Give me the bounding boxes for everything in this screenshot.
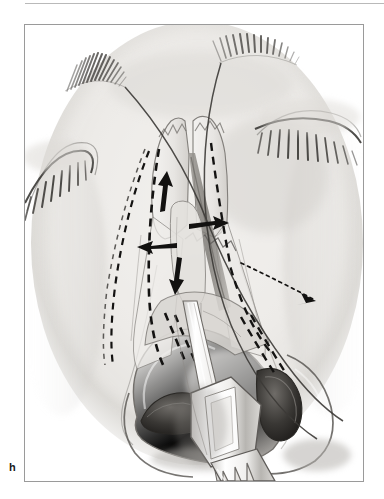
surgical-illustration <box>25 25 363 481</box>
top-divider-rule <box>25 3 384 4</box>
figure-frame <box>24 24 364 482</box>
figure-page: h <box>0 0 384 499</box>
panel-letter: h <box>9 462 16 473</box>
